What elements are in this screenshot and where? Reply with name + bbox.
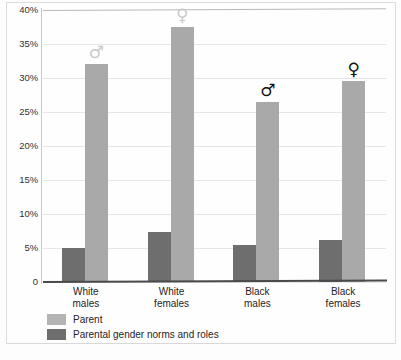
category-label-line: males — [215, 298, 301, 310]
category-label-line: females — [129, 298, 215, 310]
bar-parent-white-females — [171, 27, 194, 282]
y-tick-label-30pct: 30% — [4, 73, 38, 83]
category-label-line: Black — [215, 286, 301, 298]
bar-norms-black-males — [233, 245, 256, 282]
y-axis-tick-labels: 40%35%30%25%20%15%10%5%0 — [0, 0, 38, 292]
chart-figure: 40%35%30%25%20%15%10%5%0 ♂♀♂♀ ParentPare… — [0, 0, 401, 360]
y-tick-label-15pct: 15% — [4, 175, 38, 185]
y-axis-line — [41, 8, 42, 284]
plot-area: ♂♀♂♀ — [43, 10, 386, 282]
category-label-line: White — [129, 286, 215, 298]
y-tick-label-0: 0 — [4, 277, 38, 287]
category-label-line: White — [43, 286, 129, 298]
y-tick-label-5pct: 5% — [4, 243, 38, 253]
mars-symbol: ♂ — [256, 82, 279, 99]
category-label-white-males: Whitemales — [43, 286, 129, 309]
category-label-line: females — [300, 298, 386, 310]
legend-swatch — [47, 329, 66, 340]
y-tick-label-20pct: 20% — [4, 141, 38, 151]
bar-norms-white-males — [62, 248, 85, 282]
legend-swatch — [47, 314, 66, 325]
bar-norms-white-females — [148, 232, 171, 282]
venus-symbol: ♀ — [171, 7, 194, 24]
category-label-white-females: Whitefemales — [129, 286, 215, 309]
y-tick-label-10pct: 10% — [4, 209, 38, 219]
bar-group — [300, 10, 386, 282]
legend-item: Parent — [47, 313, 347, 325]
y-tick-label-35pct: 35% — [4, 39, 38, 49]
bar-group — [215, 10, 301, 282]
venus-symbol: ♀ — [342, 61, 365, 78]
bar-group — [129, 10, 215, 282]
bar-parent-black-females — [342, 81, 365, 282]
y-tick-label-40pct: 40% — [4, 5, 38, 15]
bar-parent-black-males — [256, 102, 279, 282]
bar-norms-black-females — [319, 240, 342, 282]
legend-item: Parental gender norms and roles — [47, 328, 347, 340]
legend-label: Parent — [73, 314, 102, 325]
legend-divider — [8, 343, 394, 344]
chart-legend: ParentParental gender norms and roles — [47, 313, 347, 343]
category-label-black-females: Blackfemales — [300, 286, 386, 309]
mars-symbol: ♂ — [85, 44, 108, 61]
y-tick-label-25pct: 25% — [4, 107, 38, 117]
category-label-black-males: Blackmales — [215, 286, 301, 309]
legend-label: Parental gender norms and roles — [73, 329, 219, 340]
category-label-line: males — [43, 298, 129, 310]
category-label-line: Black — [300, 286, 386, 298]
bar-parent-white-males — [85, 64, 108, 282]
